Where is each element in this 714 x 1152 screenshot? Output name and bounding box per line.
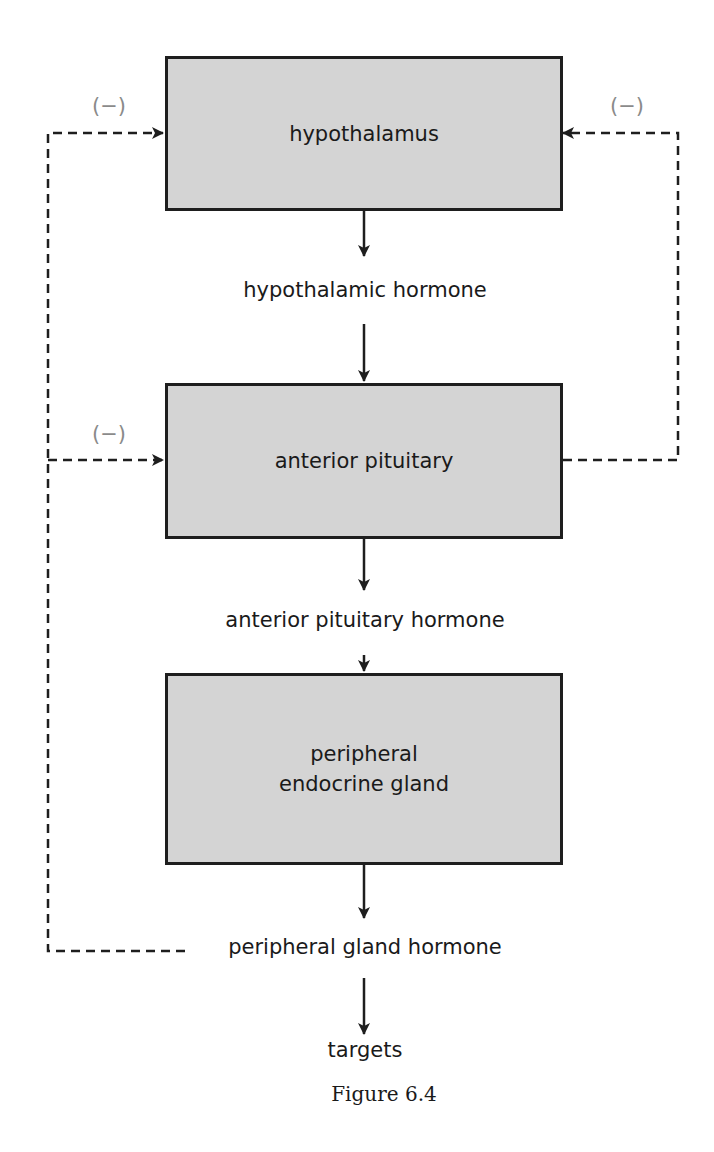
peripheral-gland-box: peripheral endocrine gland [165, 673, 563, 865]
negative-feedback-label-middle-left: (−) [92, 422, 126, 446]
figure-caption: Figure 6.4 [0, 1082, 714, 1106]
anterior-pituitary-box: anterior pituitary [165, 383, 563, 539]
hypothalamus-label: hypothalamus [289, 119, 439, 149]
anterior-pituitary-label: anterior pituitary [275, 446, 454, 476]
negative-feedback-label-top-left: (−) [92, 94, 126, 118]
negative-feedback-label-top-right: (−) [610, 94, 644, 118]
hypothalamic-hormone-label: hypothalamic hormone [0, 278, 714, 302]
peripheral-gland-label: peripheral endocrine gland [258, 739, 470, 799]
anterior-pituitary-hormone-label: anterior pituitary hormone [0, 608, 714, 632]
targets-label: targets [0, 1038, 714, 1062]
hypothalamus-box: hypothalamus [165, 56, 563, 211]
peripheral-gland-hormone-label: peripheral gland hormone [0, 935, 714, 959]
